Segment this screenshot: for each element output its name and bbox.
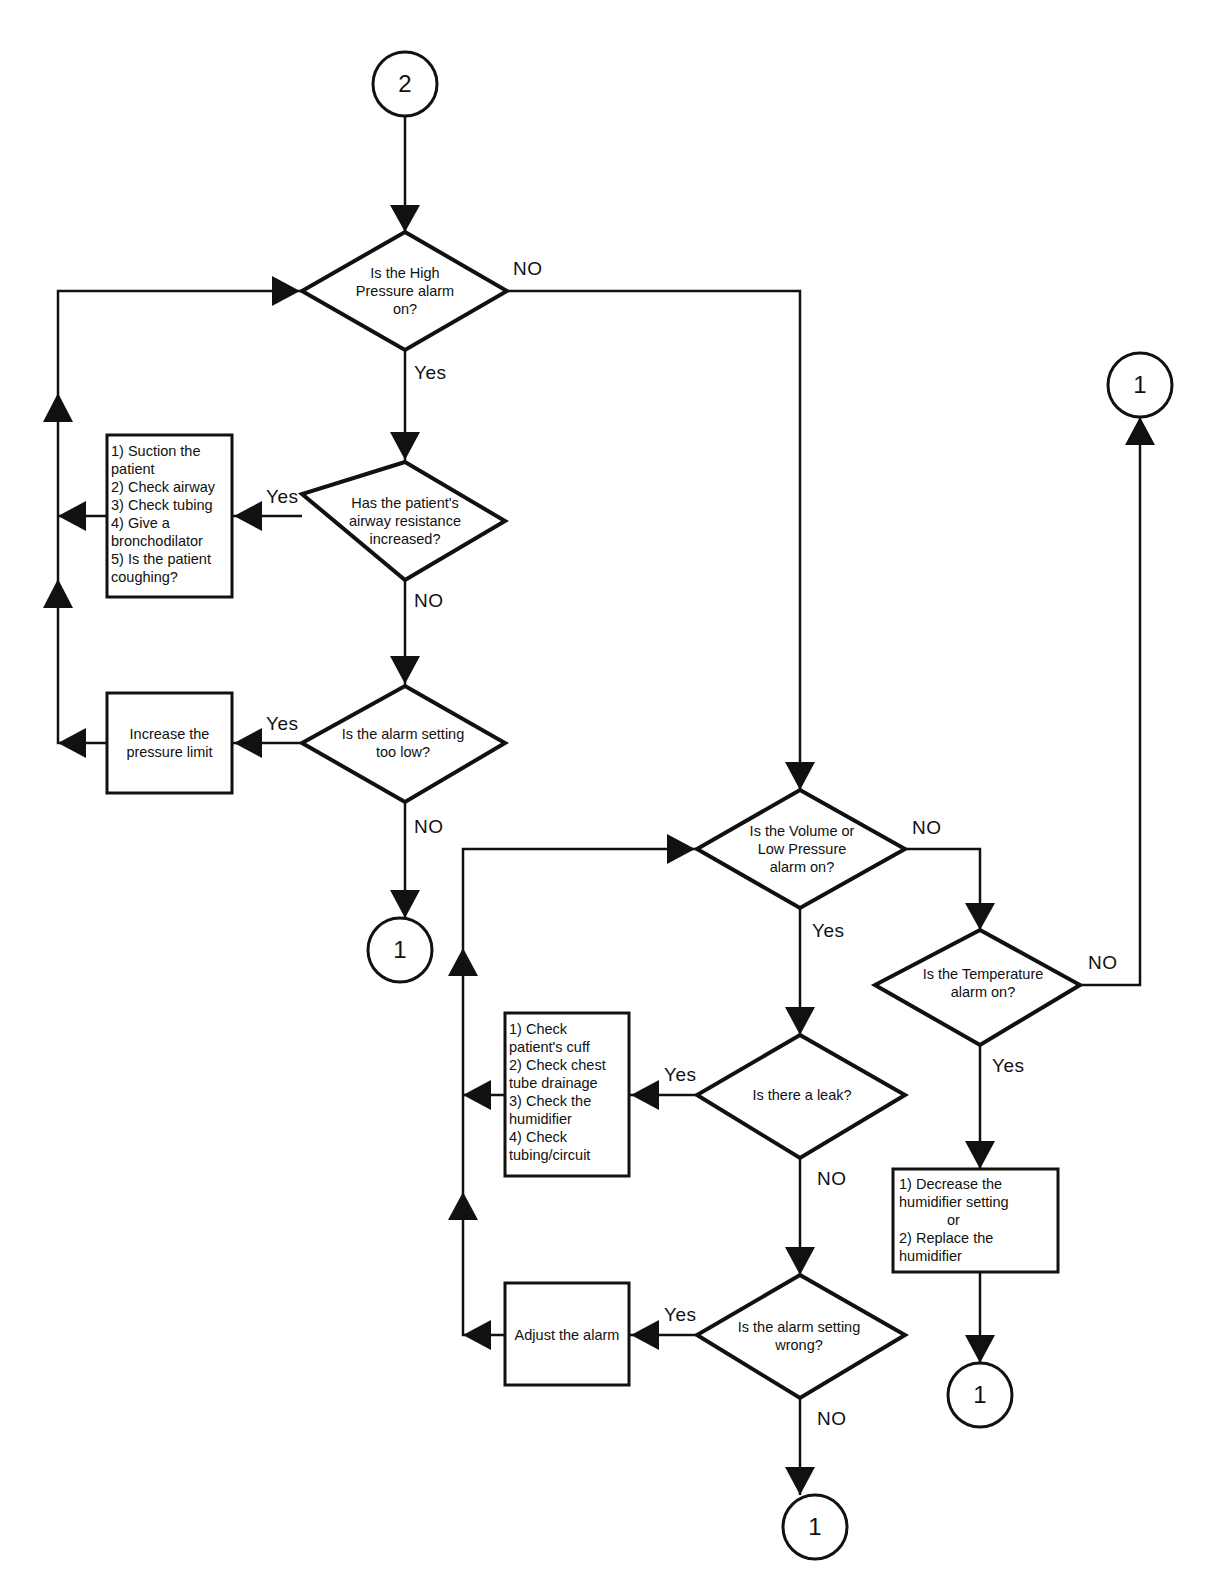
label-no-leak: NO (817, 1168, 847, 1190)
action-humidifier-steps: 1) Decrease the humidifier setting or 2)… (899, 1175, 1059, 1265)
label-no-airway: NO (414, 590, 444, 612)
label-yes-alarm-low: Yes (266, 713, 299, 735)
label-yes-airway: Yes (266, 486, 299, 508)
label-yes-volume: Yes (812, 920, 845, 942)
decision-volume-low-pressure: Is the Volume or Low Pressure alarm on? (722, 822, 882, 876)
label-no-alarm-low: NO (414, 816, 444, 838)
action-adjust-alarm: Adjust the alarm (505, 1326, 629, 1344)
decision-alarm-wrong: Is the alarm setting wrong? (714, 1318, 884, 1354)
action-increase-limit: Increase the pressure limit (107, 725, 232, 761)
label-yes-high-pressure: Yes (414, 362, 447, 384)
decision-temperature: Is the Temperature alarm on? (898, 965, 1068, 1001)
connector-end-right[interactable]: 1 (1120, 371, 1160, 399)
label-no-alarm-wrong: NO (817, 1408, 847, 1430)
action-airway-steps: 1) Suction the patient 2) Check airway 3… (111, 442, 233, 586)
connector-end-humidifier[interactable]: 1 (960, 1381, 1000, 1409)
label-yes-temperature: Yes (992, 1055, 1025, 1077)
decision-high-pressure: Is the High Pressure alarm on? (330, 264, 480, 318)
decision-airway-resistance: Has the patient's airway resistance incr… (325, 494, 485, 548)
label-no-temperature: NO (1088, 952, 1118, 974)
connector-start[interactable]: 2 (385, 70, 425, 98)
action-leak-steps: 1) Check patient's cuff 2) Check chest t… (509, 1020, 631, 1164)
decision-leak: Is there a leak? (722, 1086, 882, 1104)
label-no-volume: NO (912, 817, 942, 839)
label-yes-alarm-wrong: Yes (664, 1304, 697, 1326)
label-yes-leak: Yes (664, 1064, 697, 1086)
decision-alarm-too-low: Is the alarm setting too low? (318, 725, 488, 761)
connector-end-left[interactable]: 1 (380, 936, 420, 964)
connector-end-bottom[interactable]: 1 (795, 1513, 835, 1541)
label-no-high-pressure: NO (513, 258, 543, 280)
flowchart-lines (0, 0, 1228, 1586)
